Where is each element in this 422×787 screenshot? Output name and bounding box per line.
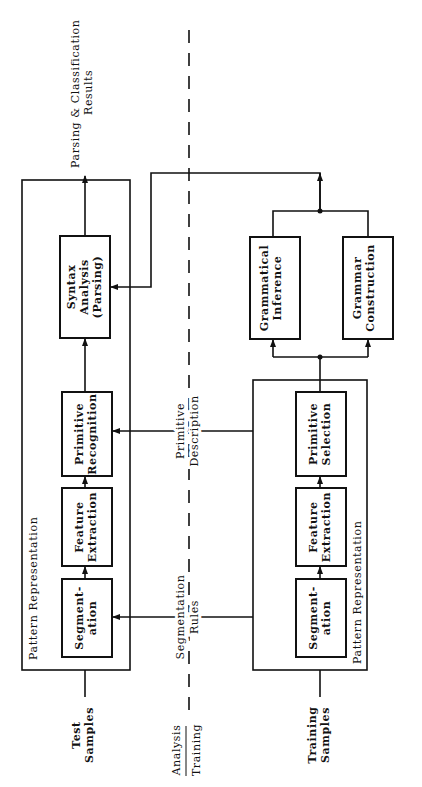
svg-text:Grammar: Grammar (351, 257, 364, 320)
output-label: Parsing & Classification Results (69, 20, 95, 168)
training-primitive-selection-label: Primitive Selection (307, 403, 333, 466)
svg-text:Analysis: Analysis (170, 725, 183, 777)
svg-text:Syntax: Syntax (65, 265, 78, 310)
svg-text:Recognition: Recognition (86, 393, 99, 474)
training-feature-extraction-label: Feature Extraction (307, 492, 333, 562)
svg-text:Feature: Feature (73, 501, 86, 552)
svg-text:Results: Results (82, 70, 95, 115)
svg-text:Segmentation: Segmentation (174, 575, 187, 660)
svg-text:Test: Test (70, 721, 83, 749)
svg-text:Feature: Feature (307, 501, 320, 552)
svg-text:Selection: Selection (320, 403, 333, 466)
training-pattern-representation-label: Pattern Representation (351, 521, 364, 664)
svg-text:Grammatical: Grammatical (258, 245, 271, 332)
svg-text:Training: Training (306, 706, 319, 763)
svg-text:Primitive: Primitive (73, 403, 86, 465)
svg-text:Analysis: Analysis (78, 259, 91, 316)
grammar-construction-label: Grammar Construction (351, 244, 377, 332)
analysis-primitive-recognition-label: Primitive Recognition (73, 393, 99, 474)
test-samples-label: Test Samples (70, 707, 96, 763)
svg-text:Parsing & Classification: Parsing & Classification (69, 20, 82, 168)
svg-text:Extraction: Extraction (86, 492, 99, 562)
analysis-training-label: Analysis Training (170, 722, 210, 782)
svg-text:Primitive: Primitive (174, 403, 187, 459)
grammatical-inference-label: Grammatical Inference (258, 245, 284, 332)
svg-text:Segment-: Segment- (73, 586, 86, 650)
svg-text:Extraction: Extraction (320, 492, 333, 562)
svg-text:ation: ation (320, 601, 333, 636)
svg-text:Samples: Samples (319, 707, 332, 763)
svg-text:Construction: Construction (364, 244, 377, 332)
primitive-description-label: Primitive Description (174, 395, 201, 466)
svg-text:Training: Training (190, 724, 203, 776)
svg-text:Segment-: Segment- (307, 586, 320, 650)
svg-text:Description: Description (188, 395, 201, 466)
svg-text:Samples: Samples (83, 707, 96, 763)
analysis-feature-extraction-label: Feature Extraction (73, 492, 99, 562)
analysis-pattern-representation-label: Pattern Representation (27, 517, 40, 660)
svg-text:ation: ation (86, 601, 99, 636)
svg-text:Inference: Inference (271, 256, 284, 321)
svg-text:(Parsing): (Parsing) (91, 256, 104, 319)
svg-text:Rules: Rules (188, 600, 201, 634)
segmentation-rules-label: Segmentation Rules (174, 575, 201, 660)
training-samples-label: Training Samples (306, 706, 332, 763)
svg-text:Primitive: Primitive (307, 403, 320, 465)
syntactic-pattern-recognition-diagram: Parsing & Classification Results Syntax … (0, 0, 422, 787)
syntax-analysis-label: Syntax Analysis (Parsing) (65, 256, 104, 319)
